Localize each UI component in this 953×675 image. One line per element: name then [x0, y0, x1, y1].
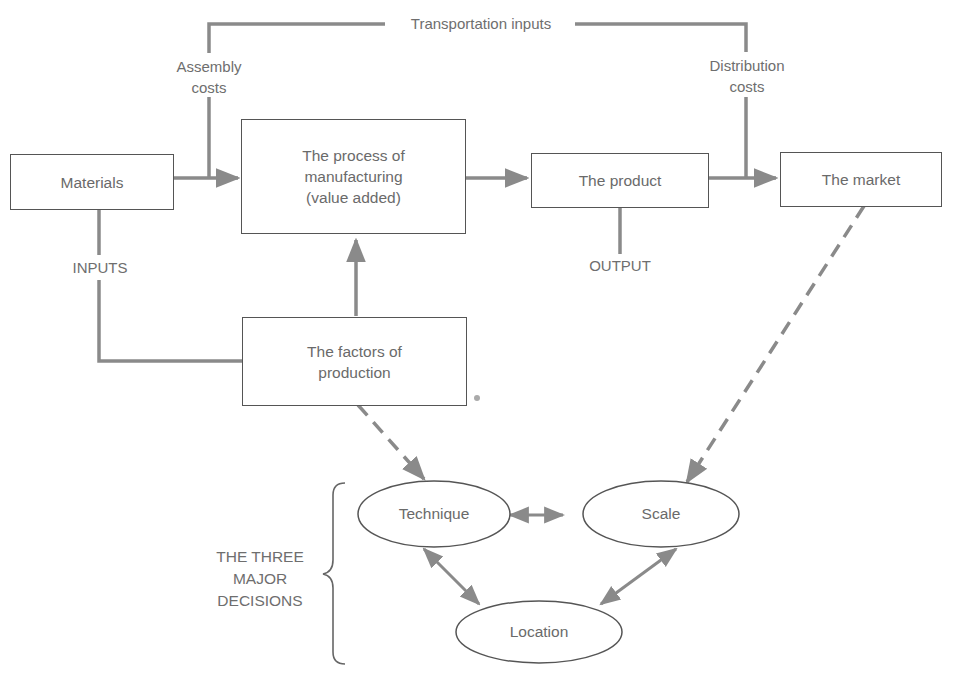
distribution-costs-label: Distribution costs [692, 55, 802, 97]
technique-location-arrow [424, 549, 479, 604]
factors-to-technique-dashed-arrow [358, 405, 424, 479]
technique-oval: Technique [358, 481, 510, 547]
scale-location-arrow [601, 549, 676, 604]
three-major-decisions-label: THE THREE MAJOR DECISIONS [200, 546, 320, 612]
market-box: The market [780, 152, 942, 207]
factors-box: The factors of production [242, 317, 467, 406]
transportation-line [209, 24, 385, 53]
decisions-brace [323, 483, 345, 664]
materials-box: Materials [10, 154, 174, 210]
assembly-costs-label: Assembly costs [159, 56, 259, 98]
transportation-inputs-label: Transportation inputs [388, 13, 574, 34]
product-box: The product [531, 153, 709, 208]
diagram-connectors [0, 0, 953, 675]
scale-oval: Scale [583, 481, 739, 547]
inputs-label: INPUTS [60, 257, 140, 278]
market-to-scale-dashed-arrow [687, 206, 864, 482]
process-box: The process of manufacturing (value adde… [241, 119, 466, 234]
location-oval: Location [456, 601, 622, 663]
output-label: OUTPUT [578, 255, 662, 276]
